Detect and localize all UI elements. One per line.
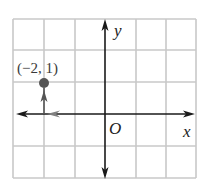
coordinate-plane: (−2, 1) y O x: [0, 0, 211, 180]
y-axis-label: y: [112, 21, 122, 40]
x-axis-label: x: [182, 122, 191, 141]
plotted-point: [39, 78, 49, 88]
translation-path: [41, 88, 61, 118]
y-axis: [102, 19, 109, 179]
coordinate-plane-figure: (−2, 1) y O x: [0, 0, 211, 180]
origin-label: O: [109, 119, 121, 138]
point-label: (−2, 1): [17, 60, 58, 77]
